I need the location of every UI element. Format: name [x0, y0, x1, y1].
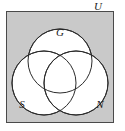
set-n-label: N [95, 98, 104, 110]
universal-set-label: U [94, 0, 103, 12]
venn-diagram-canvas: U G S N [0, 0, 125, 131]
set-g-label: G [56, 26, 64, 38]
set-s-label: S [19, 98, 25, 110]
venn-diagram-figure: U G S N [0, 0, 125, 131]
